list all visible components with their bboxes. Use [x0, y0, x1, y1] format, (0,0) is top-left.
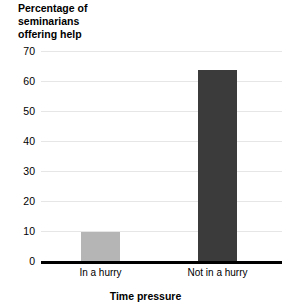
y-axis-title: Percentage of seminarians offering help: [18, 2, 198, 42]
x-category-label-0: In a hurry: [50, 267, 151, 279]
gridline-50: [41, 111, 282, 112]
y-tick-40: 40: [7, 136, 35, 147]
x-axis-title: Time pressure: [0, 290, 291, 303]
x-category-label-1: Not in a hurry: [167, 267, 268, 279]
y-tick-20: 20: [7, 196, 35, 207]
gridline-30: [41, 171, 282, 172]
y-tick-60: 60: [7, 76, 35, 87]
bar-chart-figure: Percentage of seminarians offering help …: [0, 0, 291, 308]
y-tick-30: 30: [7, 166, 35, 177]
bar-in-a-hurry: [81, 232, 120, 262]
y-axis-tick-labels: 70 60 50 40 30 20 10 0: [0, 51, 35, 262]
y-tick-50: 50: [7, 106, 35, 117]
gridline-70: [41, 51, 282, 52]
gridline-60: [41, 81, 282, 82]
gridline-40: [41, 141, 282, 142]
gridline-10: [41, 231, 282, 232]
x-axis-baseline: [41, 261, 282, 264]
y-tick-70: 70: [7, 46, 35, 57]
y-tick-0: 0: [7, 256, 35, 267]
plot-area: [41, 51, 282, 262]
y-tick-10: 10: [7, 226, 35, 237]
gridline-20: [41, 201, 282, 202]
bar-not-in-a-hurry: [198, 70, 237, 262]
